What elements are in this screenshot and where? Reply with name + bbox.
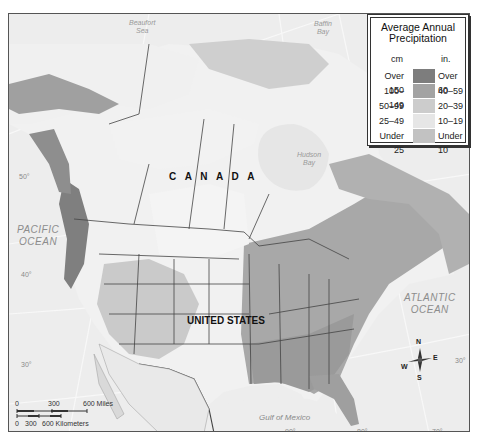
legend-cm-value: Under 25	[371, 129, 404, 157]
lon-90-label: 90°	[285, 428, 296, 432]
gulf-of-mexico-label: Gulf of Mexico	[259, 413, 310, 422]
atlantic-label-line2: OCEAN	[404, 304, 456, 316]
legend-title-line2: Precipitation	[371, 33, 465, 44]
pacific-ocean-label: PACIFIC OCEAN	[17, 224, 59, 248]
hudson-label-line2: Bay	[297, 159, 321, 167]
hudson-label-line1: Hudson	[297, 151, 321, 159]
legend-swatch	[413, 129, 435, 143]
compass-w: W	[401, 363, 408, 370]
legend-row-over-150: Over 150 Over 60	[371, 69, 465, 83]
legend-swatch	[413, 84, 435, 98]
baffin-label-line2: Bay	[314, 28, 332, 36]
legend-row-25-49: 25–49 10–19	[371, 114, 465, 128]
legend-in-value: 20–39	[438, 99, 463, 113]
lat-50-label: 50°	[19, 173, 30, 180]
legend-inner-border: Average Annual Precipitation cm in. Over…	[370, 17, 466, 143]
baffin-label-line1: Baffin	[314, 20, 332, 28]
compass-rose: N S E W	[400, 338, 440, 382]
pacific-label-line2: OCEAN	[17, 236, 59, 248]
legend-cm-value: 50–99	[379, 99, 404, 113]
lat-40-label: 40°	[21, 271, 32, 278]
lat-30-west-label: 30°	[21, 361, 32, 368]
baffin-bay-label: Baffin Bay	[314, 20, 332, 36]
beaufort-label-line2: Sea	[129, 27, 155, 35]
legend-row-50-99: 50–99 20–39	[371, 99, 465, 113]
scale-miles-0: 0	[15, 400, 19, 407]
legend-in-value: 40–59	[438, 84, 463, 98]
beaufort-sea-label: Beaufort Sea	[129, 19, 155, 35]
lon-80-label: 80°	[357, 428, 368, 432]
atlantic-ocean-label: ATLANTIC OCEAN	[404, 292, 456, 316]
lon-70-label: 70°	[432, 428, 443, 432]
hudson-bay-label: Hudson Bay	[297, 151, 321, 167]
legend-swatch	[413, 69, 435, 83]
beaufort-label-line1: Beaufort	[129, 19, 155, 27]
scale-km-300: 300	[25, 420, 37, 427]
scale-km-0: 0	[15, 420, 19, 427]
legend-row-under-25: Under 25 Under 10	[371, 129, 465, 143]
united-states-label: UNITED STATES	[187, 315, 265, 326]
pacific-label-line1: PACIFIC	[17, 224, 59, 236]
compass-n: N	[416, 338, 421, 345]
legend-swatch	[413, 114, 435, 128]
legend-unit-in: in.	[441, 54, 451, 64]
compass-s: S	[417, 374, 422, 381]
compass-e: E	[433, 354, 438, 361]
legend-cm-value: 25–49	[379, 114, 404, 128]
legend-row-100-149: 100–149 40–59	[371, 84, 465, 98]
legend-title: Average Annual Precipitation	[371, 22, 465, 44]
canada-label: C A N A D A	[169, 171, 257, 182]
lat-30-east-label: 30°	[455, 357, 466, 364]
legend-in-value: 10–19	[438, 114, 463, 128]
scale-km-600: 600 Kilometers	[42, 420, 89, 427]
scale-miles-300: 300	[48, 400, 60, 407]
scale-bar: 0 300 600 Miles 0 300 600 Kilometers	[15, 400, 115, 430]
precipitation-legend: Average Annual Precipitation cm in. Over…	[367, 14, 469, 146]
atlantic-label-line1: ATLANTIC	[404, 292, 456, 304]
legend-swatch	[413, 99, 435, 113]
legend-unit-cm: cm	[391, 54, 403, 64]
scale-miles-600: 600 Miles	[83, 400, 113, 407]
legend-in-value: Under 10	[438, 129, 465, 157]
